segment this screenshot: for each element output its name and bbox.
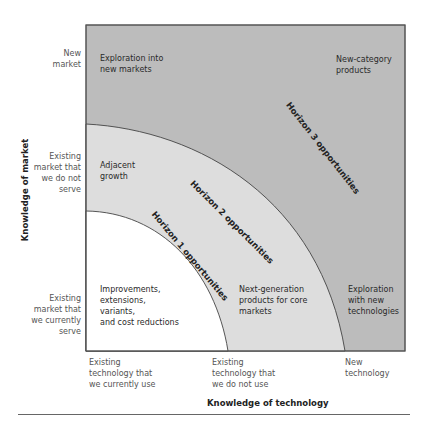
x-level-existing-current: Existing technology that we currently us…	[89, 357, 156, 390]
y-level-new-market: New market	[53, 48, 81, 70]
y-axis-title: Knowledge of market	[20, 139, 30, 241]
x-axis-title: Knowledge of technology	[207, 398, 329, 408]
cell-next-generation: Next-generation products for core market…	[239, 284, 307, 317]
cell-exploration-new-markets: Exploration into new markets	[100, 53, 163, 75]
cell-improvements: Improvements, extensions, variants, and …	[100, 284, 179, 328]
x-level-new-technology: New technology	[345, 357, 389, 379]
y-level-existing-not-served: Existing market that we do not serve	[34, 151, 81, 195]
cell-exploration-new-tech: Exploration with new technologies	[348, 284, 399, 317]
cell-adjacent-growth: Adjacent growth	[100, 160, 135, 182]
y-level-existing-served: Existing market that we currently serve	[31, 293, 81, 337]
bottom-divider	[18, 414, 410, 415]
x-level-existing-not-used: Existing technology that we do not use	[212, 357, 275, 390]
cell-new-category-products: New-category products	[336, 54, 392, 76]
